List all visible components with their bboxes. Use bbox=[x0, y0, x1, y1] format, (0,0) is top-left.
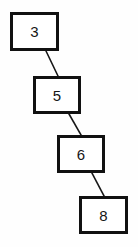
node-6[interactable]: 6 bbox=[57, 135, 105, 173]
edge-n2-n3 bbox=[92, 173, 104, 196]
diagram-canvas: 3 5 6 8 bbox=[0, 0, 138, 247]
node-value: 3 bbox=[30, 24, 38, 39]
node-value: 5 bbox=[53, 88, 61, 103]
edge-n1-n2 bbox=[69, 114, 81, 135]
node-8[interactable]: 8 bbox=[79, 196, 128, 234]
node-value: 8 bbox=[99, 208, 107, 223]
node-5[interactable]: 5 bbox=[33, 76, 81, 114]
node-3[interactable]: 3 bbox=[10, 12, 59, 51]
node-value: 6 bbox=[77, 147, 85, 162]
edge-n0-n1 bbox=[46, 51, 58, 76]
